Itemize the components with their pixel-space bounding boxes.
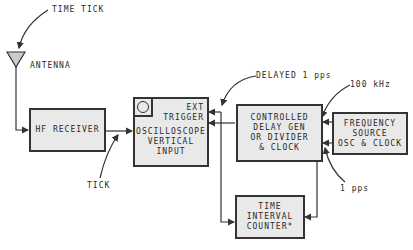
frequency-source-block: FREQUENCY SOURCE OSC & CLOCK — [332, 112, 408, 155]
delayed-pps-label: DELAYED 1 pps — [256, 71, 332, 80]
block-text: VERTICAL — [136, 137, 206, 147]
block-text: OSC & CLOCK — [338, 139, 402, 149]
time-interval-counter-block: TIME INTERVAL COUNTER* — [235, 195, 305, 239]
block-text: COUNTER* — [247, 222, 294, 232]
block-text: DELAY GEN — [253, 123, 305, 133]
oscilloscope-block: EXT TRIGGER OSCILLOSCOPE VERTICAL INPUT — [133, 97, 209, 167]
trigger-text: TRIGGER — [163, 113, 204, 123]
time-tick-label: TIME TICK — [52, 5, 104, 14]
block-text: TIME — [258, 202, 281, 212]
block-text: FREQUENCY — [344, 119, 396, 129]
delay-generator-block: CONTROLLED DELAY GEN OR DIVIDER & CLOCK — [236, 104, 323, 162]
antenna-label: ANTENNA — [30, 61, 71, 70]
block-text: & CLOCK — [259, 143, 300, 153]
block-text: INPUT — [136, 147, 206, 157]
trigger-text: EXT — [163, 103, 204, 113]
block-text: CONTROLLED — [250, 113, 308, 123]
pps-label: 1 pps — [340, 184, 369, 193]
block-text: SOURCE — [353, 129, 388, 139]
khz-label: 100 kHz — [350, 80, 391, 89]
block-text: HF RECEIVER — [36, 125, 100, 135]
block-text: OR DIVIDER — [250, 133, 308, 143]
block-text: INTERVAL — [247, 212, 294, 222]
hf-receiver-block: HF RECEIVER — [29, 108, 106, 152]
scope-screen-icon — [135, 99, 153, 117]
tick-label: TICK — [87, 181, 110, 190]
block-text: OSCILLOSCOPE — [136, 127, 206, 137]
